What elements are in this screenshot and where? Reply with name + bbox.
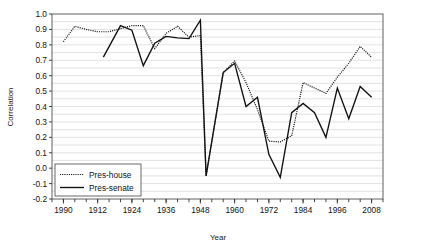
y-tick-label: -0.2 [33,194,48,204]
x-tick-label: 1990 [54,205,73,215]
y-tick-label: 0.8 [35,40,47,50]
x-tick-label: 2008 [362,205,381,215]
legend-label-pres-house: Pres-house [89,170,132,180]
y-tick-label: 0.2 [35,132,47,142]
y-tick-label: 0.6 [35,71,47,81]
y-tick-label: 0.1 [35,148,47,158]
y-tick-label: 0.3 [35,117,47,127]
x-tick-label: 1936 [157,205,176,215]
x-tick-label: 1996 [328,205,347,215]
y-tick-label: 1.0 [35,9,47,19]
correlation-line-chart: 1.00.90.80.70.60.50.40.30.20.10.0-0.1-0.… [0,0,422,250]
y-tick-label: -0.1 [33,179,48,189]
legend-label-pres-senate: Pres-senate [89,183,134,193]
y-tick-label: 0.0 [35,163,47,173]
y-tick-label: 0.9 [35,24,47,34]
x-tick-label: 1948 [191,205,210,215]
chart-legend: Pres-house Pres-senate [55,164,141,196]
x-tick-label: 1960 [225,205,244,215]
y-tick-label: 0.4 [35,102,47,112]
y-tick-label: 0.7 [35,55,47,65]
x-tick-label: 1984 [294,205,313,215]
y-tick-label: 0.5 [35,86,47,96]
y-axis-label: Correlation [6,87,15,126]
x-tick-label: 1912 [88,205,107,215]
x-tick-label: 1972 [260,205,279,215]
x-axis-label: Year [210,233,227,242]
x-tick-label: 1924 [123,205,142,215]
